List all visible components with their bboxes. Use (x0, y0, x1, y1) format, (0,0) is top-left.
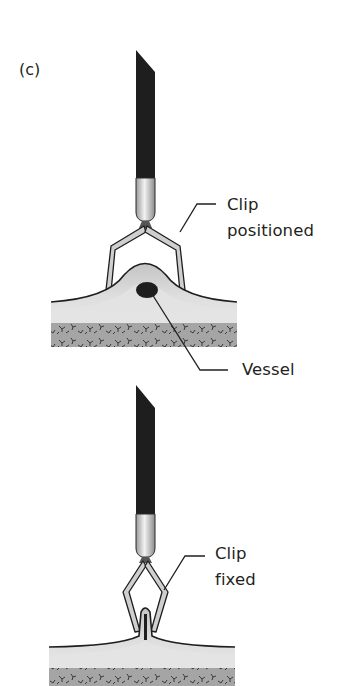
label-vessel: Vessel (242, 357, 295, 383)
stage-1-clip-positioned (51, 50, 237, 370)
tissue-pinched (49, 608, 235, 686)
vessel-icon (136, 282, 158, 298)
endoscope-instrument-icon (136, 385, 155, 563)
vessel-compressed-icon (144, 614, 147, 640)
label-clip-positioned-line2: positioned (227, 218, 314, 244)
endoscope-instrument-icon (136, 50, 155, 228)
label-clip-positioned-line1: Clip (227, 192, 259, 218)
label-clip-fixed-line1: Clip (215, 541, 247, 567)
stage-2-clip-fixed (49, 385, 235, 686)
leader-line-clip-positioned (180, 204, 216, 232)
tissue-raised (51, 264, 237, 348)
label-clip-fixed-line2: fixed (215, 567, 256, 593)
leader-line-clip-fixed (164, 556, 205, 590)
endoscopic-clip-diagram (0, 0, 344, 686)
